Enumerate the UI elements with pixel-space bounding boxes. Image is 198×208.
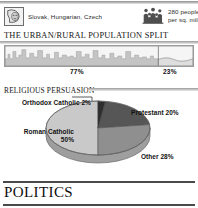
- politics-rule-bottom: [3, 204, 195, 206]
- pie-label-protestant: Protestant 20%: [131, 109, 179, 117]
- pie-label-roman-catholic: Roman Catholic 50%: [14, 128, 74, 143]
- urban-rural-rule: [0, 41, 198, 44]
- fact-language: Slovak, Hungarian, Czech: [4, 7, 102, 26]
- urban-rural-percent-row: 77% 23%: [0, 68, 198, 78]
- fact-density-label: 280 people per sq. mile: [168, 8, 198, 23]
- urban-rural-heading: THE URBAN/RURAL POPULATION SPLIT: [4, 31, 168, 40]
- fact-density: 280 people per sq. mile: [142, 6, 198, 25]
- fact-language-label: Slovak, Hungarian, Czech: [28, 13, 102, 20]
- top-divider: [0, 1, 198, 4]
- pie-label-other: Other 28%: [141, 153, 174, 161]
- people-crowd-icon: [142, 6, 164, 25]
- fact-row: Slovak, Hungarian, Czech 280 people per …: [0, 6, 198, 29]
- religion-rule: [88, 88, 198, 91]
- speech-head-icon: [4, 7, 24, 26]
- infographic-page: Slovak, Hungarian, Czech 280 people per …: [0, 0, 198, 208]
- politics-rule-top: [3, 181, 195, 183]
- rural-percent: 23%: [163, 68, 177, 75]
- urban-percent: 77%: [70, 68, 84, 75]
- urban-rural-illustration: [4, 45, 194, 67]
- pie-label-orthodox-catholic: Orthodox Catholic 2%: [22, 99, 91, 107]
- politics-title: POLITICS: [4, 184, 73, 201]
